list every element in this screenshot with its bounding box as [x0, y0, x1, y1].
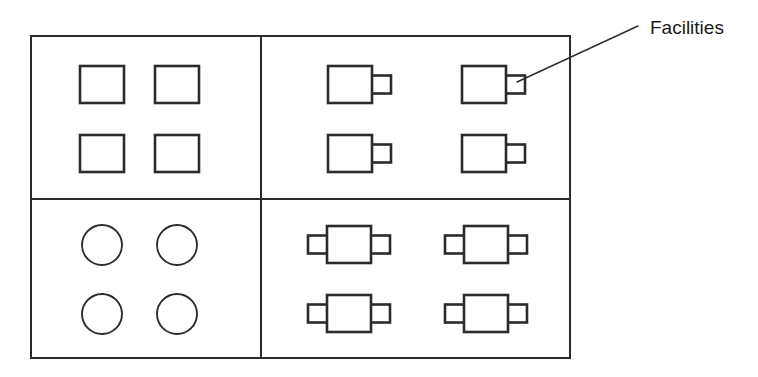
double-tab-rectangle-r1c1 [308, 226, 390, 263]
circle-r2c2 [157, 294, 197, 334]
right-tab-rectangle-r2c1 [328, 135, 391, 172]
plain-rectangle-r2c2 [155, 135, 199, 172]
plain-rectangle-r1c2 [155, 66, 199, 103]
right-tab-rectangle-r2c1-body [328, 135, 372, 172]
circle-r1c1 [82, 225, 122, 265]
top-left-quadrant [80, 66, 199, 172]
right-tab-rectangle-r2c2 [462, 135, 525, 172]
right-tab-rectangle-r2c2-body [462, 135, 506, 172]
double-tab-rectangle-r2c1-body [327, 295, 371, 332]
circle-r1c2 [157, 225, 197, 265]
diagram-canvas: Facilities [0, 0, 758, 377]
right-tab-rectangle-r1c1 [328, 66, 391, 103]
double-tab-rectangle-r2c2 [445, 295, 527, 332]
circle-r2c1 [82, 294, 122, 334]
double-tab-rectangle-r2c2-body [464, 295, 508, 332]
plain-rectangle-r1c1 [80, 66, 124, 103]
double-tab-rectangle-r1c2-body [464, 226, 508, 263]
double-tab-rectangle-r1c1-body [327, 226, 371, 263]
right-tab-rectangle-r1c2 [462, 66, 525, 103]
top-right-quadrant [328, 66, 525, 172]
right-tab-rectangle-r1c2-body [462, 66, 506, 103]
bottom-right-quadrant [308, 226, 527, 332]
diagram-svg: Facilities [0, 0, 758, 377]
right-tab-rectangle-r1c1-body [328, 66, 372, 103]
double-tab-rectangle-r2c1 [308, 295, 390, 332]
facilities-label: Facilities [650, 17, 724, 38]
double-tab-rectangle-r1c2 [445, 226, 527, 263]
plain-rectangle-r2c1 [80, 135, 124, 172]
bottom-left-quadrant [82, 225, 197, 334]
facilities-leader-line [517, 26, 638, 82]
